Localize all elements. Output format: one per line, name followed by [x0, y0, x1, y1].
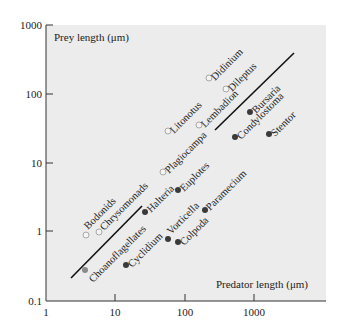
- y-tick-0.1: 0.1: [28, 295, 42, 307]
- y-tick-100: 100: [26, 88, 43, 100]
- point-bodonids: [83, 232, 89, 238]
- chart: 1000 100 10 1 0.1 1 10 100 1000 Prey len…: [0, 0, 338, 332]
- x-axis-title: Predator length (μm): [216, 278, 308, 291]
- point-vorticella: [165, 236, 171, 242]
- point-choanoflagellates: [82, 267, 88, 273]
- y-tick-1000: 1000: [20, 19, 43, 31]
- y-axis-title: Prey length (μm): [54, 31, 129, 44]
- x-tick-1000: 1000: [243, 306, 266, 318]
- plot-area: [46, 25, 326, 301]
- x-tick-100: 100: [177, 306, 194, 318]
- point-chrysomonads: [96, 229, 102, 235]
- y-tick-10: 10: [31, 157, 43, 169]
- x-tick-10: 10: [110, 306, 122, 318]
- x-tick-1: 1: [43, 306, 49, 318]
- y-tick-1: 1: [37, 225, 43, 237]
